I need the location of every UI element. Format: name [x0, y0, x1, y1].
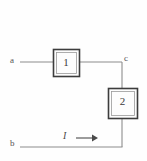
- terminal-label-c: c: [124, 54, 128, 63]
- current-arrow-icon: [76, 135, 98, 142]
- terminal-label-b: b: [10, 139, 15, 148]
- diagram-canvas: [0, 0, 147, 161]
- current-label-I: I: [63, 131, 66, 141]
- block-1-label: 1: [53, 57, 79, 68]
- terminal-label-a: a: [10, 56, 14, 65]
- block-2-label: 2: [108, 96, 137, 107]
- circuit-diagram: a b c 1 2 I: [0, 0, 147, 161]
